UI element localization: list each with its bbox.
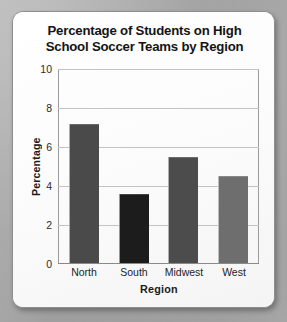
y-axis-tick-label: 8: [46, 102, 52, 114]
y-axis-tick-label: 0: [46, 258, 52, 270]
chart-card: Percentage of Students on High School So…: [12, 11, 275, 308]
bar-series: [59, 69, 258, 263]
chart-title: Percentage of Students on High School So…: [23, 23, 266, 54]
chart-card-surface: Percentage of Students on High School So…: [13, 12, 274, 307]
y-axis-tick-label: 6: [46, 141, 52, 153]
x-axis-tick-label: North: [60, 266, 108, 278]
bar-north[interactable]: [69, 124, 99, 262]
x-axis-line: [58, 263, 259, 264]
y-axis-tick-label: 2: [46, 219, 52, 231]
bar-midwest[interactable]: [168, 157, 198, 262]
chart-title-line-1: Percentage of Students on High: [23, 23, 266, 39]
y-axis-tick-label: 4: [46, 180, 52, 192]
x-axis-tick-label: South: [110, 266, 158, 278]
bar-south[interactable]: [119, 194, 149, 262]
x-axis-title: Region: [59, 283, 259, 295]
x-axis-tick-label: West: [210, 266, 258, 278]
plot-border-right: [258, 69, 259, 264]
x-axis-tick-labels: NorthSouthMidwestWest: [59, 266, 259, 278]
y-axis-title: Percentage: [30, 69, 42, 264]
plot-area: 0246810: [58, 69, 259, 264]
y-axis-tick-label: 10: [40, 63, 52, 75]
bar-west[interactable]: [218, 176, 248, 263]
chart-title-line-2: School Soccer Teams by Region: [23, 39, 266, 55]
x-axis-tick-label: Midwest: [160, 266, 208, 278]
